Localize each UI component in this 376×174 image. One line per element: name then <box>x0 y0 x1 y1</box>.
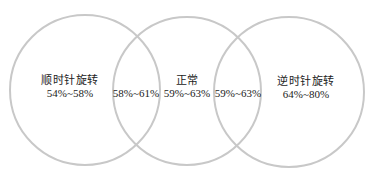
overlap-clockwise-normal-label: 58%~61% <box>113 87 159 99</box>
overlap-normal-counterclockwise-label: 59%~63% <box>215 87 261 99</box>
clockwise-label: 顺时针旋转 54%~58% <box>41 75 99 99</box>
overlap-normal-counterclockwise-range: 59%~63% <box>215 87 261 99</box>
counterclockwise-label: 逆时针旋转 64%~80% <box>277 76 335 100</box>
counterclockwise-title: 逆时针旋转 <box>277 76 335 88</box>
clockwise-range: 54%~58% <box>41 87 99 99</box>
normal-title: 正常 <box>164 75 210 87</box>
normal-label: 正常 59%~63% <box>164 75 210 99</box>
normal-range: 59%~63% <box>164 87 210 99</box>
clockwise-title: 顺时针旋转 <box>41 75 99 87</box>
venn-diagram: 顺时针旋转 54%~58% 58%~61% 正常 59%~63% 59%~63%… <box>0 0 376 174</box>
counterclockwise-range: 64%~80% <box>277 88 335 100</box>
overlap-clockwise-normal-range: 58%~61% <box>113 87 159 99</box>
